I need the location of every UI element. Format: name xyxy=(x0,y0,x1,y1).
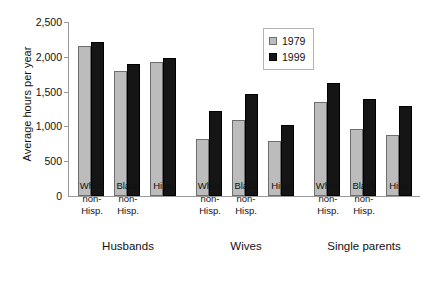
x-group-label: Husbands xyxy=(68,240,188,252)
bar-pair xyxy=(114,22,142,196)
bar-group xyxy=(78,22,186,196)
y-tick-mark xyxy=(64,22,68,23)
legend: 1979 1999 xyxy=(263,28,314,70)
bar-1999 xyxy=(163,58,176,197)
y-tick-label: 2,000 xyxy=(18,52,62,63)
bar-pair xyxy=(78,22,106,196)
x-category-label-line: Hisp. xyxy=(106,205,150,218)
x-category-label-line: Hisp. xyxy=(342,205,386,218)
bar-group xyxy=(314,22,422,196)
legend-label-1979: 1979 xyxy=(282,36,305,47)
y-tick-label: 1,500 xyxy=(18,86,62,97)
bar-1999 xyxy=(127,64,140,196)
y-axis-tick-labels: 05001,0001,5002,0002,500 xyxy=(18,0,62,281)
x-category-label-line: Hisp. xyxy=(224,205,268,218)
y-tick-label: 2,500 xyxy=(18,17,62,28)
bar-pair xyxy=(196,22,224,196)
bar-pair xyxy=(232,22,260,196)
y-axis-line xyxy=(68,22,69,196)
x-category-label-line: non- xyxy=(342,193,386,206)
x-category-label: Hisp. xyxy=(378,180,422,193)
bar-pair xyxy=(150,22,178,196)
x-category-label: Hisp. xyxy=(260,180,304,193)
x-group-label: Single parents xyxy=(304,240,424,252)
black-swatch-icon xyxy=(269,53,277,61)
plot-area xyxy=(68,22,420,196)
bar-pair xyxy=(386,22,414,196)
x-category-label-line: non- xyxy=(224,193,268,206)
y-tick-label: 0 xyxy=(18,191,62,202)
x-category-label: Hisp. xyxy=(142,180,186,193)
x-category-label-line: Hisp. xyxy=(378,180,422,193)
bar-1979 xyxy=(78,46,91,196)
y-tick-mark xyxy=(64,126,68,127)
y-tick-mark xyxy=(64,161,68,162)
x-category-label-line: Hisp. xyxy=(260,180,304,193)
bar-pair xyxy=(350,22,378,196)
bar-1999 xyxy=(91,42,104,197)
y-tick-label: 1,000 xyxy=(18,121,62,132)
x-category-label-line: Hisp. xyxy=(142,180,186,193)
bar-pair xyxy=(314,22,342,196)
x-category-label-line: non- xyxy=(106,193,150,206)
x-group-label: Wives xyxy=(186,240,306,252)
bar-1979 xyxy=(150,62,163,196)
bar-1979 xyxy=(114,71,127,196)
gray-swatch-icon xyxy=(269,37,277,45)
legend-item-1999: 1999 xyxy=(269,49,305,65)
y-tick-label: 500 xyxy=(18,156,62,167)
legend-label-1999: 1999 xyxy=(282,52,305,63)
legend-item-1979: 1979 xyxy=(269,33,305,49)
bar-chart: Average hours per year 05001,0001,5002,0… xyxy=(0,0,430,281)
y-tick-mark xyxy=(64,92,68,93)
y-tick-mark xyxy=(64,57,68,58)
